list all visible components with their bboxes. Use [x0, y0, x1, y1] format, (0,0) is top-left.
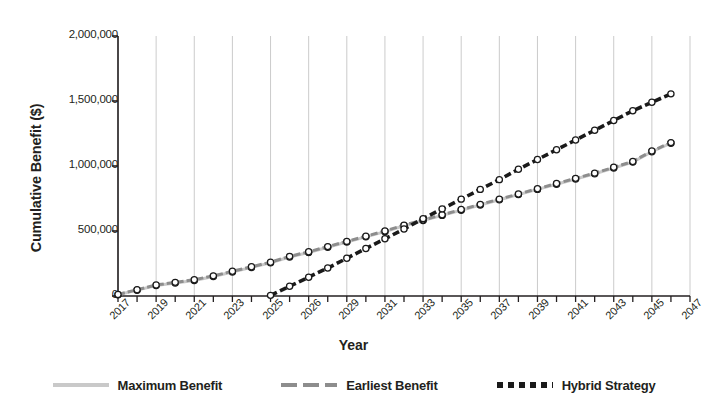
legend-label: Hybrid Strategy — [562, 378, 656, 393]
data-point-marker — [382, 236, 388, 242]
data-point-marker — [649, 99, 655, 105]
data-point-marker — [515, 191, 521, 197]
data-point-marker — [668, 140, 674, 146]
series-hybrid-strategy — [267, 91, 674, 299]
chart-legend: Maximum BenefitEarliest BenefitHybrid St… — [0, 372, 707, 398]
data-point-marker — [325, 265, 331, 271]
data-point-marker — [439, 206, 445, 212]
series-line — [118, 143, 671, 294]
data-point-marker — [172, 279, 178, 285]
legend-label: Maximum Benefit — [118, 378, 223, 393]
data-point-marker — [420, 216, 426, 222]
data-point-marker — [477, 201, 483, 207]
legend-item-hybrid-strategy[interactable]: Hybrid Strategy — [496, 378, 656, 393]
data-point-marker — [363, 233, 369, 239]
data-point-marker — [592, 127, 598, 133]
data-point-marker — [401, 226, 407, 232]
data-point-marker — [344, 238, 350, 244]
data-point-marker — [553, 147, 559, 153]
data-point-marker — [553, 180, 559, 186]
data-point-marker — [306, 249, 312, 255]
data-point-marker — [592, 170, 598, 176]
data-point-marker — [344, 255, 350, 261]
data-point-marker — [573, 175, 579, 181]
series-earliest-benefit — [115, 140, 674, 298]
data-point-marker — [287, 283, 293, 289]
data-point-marker — [534, 156, 540, 162]
data-point-marker — [515, 166, 521, 172]
legend-item-maximum-benefit[interactable]: Maximum Benefit — [52, 378, 223, 393]
series-maximum-benefit — [115, 140, 674, 298]
chart-figure: Cumulative Benefit ($) 0500,0001,000,000… — [0, 0, 707, 405]
data-point-marker — [458, 196, 464, 202]
data-point-marker — [534, 186, 540, 192]
data-point-marker — [649, 148, 655, 154]
data-point-marker — [325, 244, 331, 250]
data-point-marker — [611, 164, 617, 170]
data-point-marker — [668, 91, 674, 97]
data-point-marker — [248, 264, 254, 270]
series-line — [118, 143, 671, 295]
legend-swatch-icon — [52, 380, 110, 390]
data-point-marker — [115, 291, 121, 297]
legend-swatch-icon — [496, 380, 554, 390]
data-point-marker — [191, 277, 197, 283]
data-point-marker — [630, 158, 636, 164]
data-point-marker — [287, 253, 293, 259]
data-point-marker — [134, 287, 140, 293]
data-point-marker — [267, 259, 273, 265]
data-point-marker — [382, 228, 388, 234]
data-point-marker — [477, 186, 483, 192]
data-point-marker — [630, 108, 636, 114]
data-point-marker — [611, 117, 617, 123]
legend-label: Earliest Benefit — [346, 378, 437, 393]
data-point-marker — [210, 273, 216, 279]
data-point-marker — [496, 196, 502, 202]
data-point-marker — [573, 137, 579, 143]
data-point-marker — [363, 245, 369, 251]
data-point-marker — [496, 177, 502, 183]
legend-swatch-icon — [280, 380, 338, 390]
data-point-marker — [458, 206, 464, 212]
data-point-marker — [153, 282, 159, 288]
data-point-marker — [267, 292, 273, 298]
legend-item-earliest-benefit[interactable]: Earliest Benefit — [280, 378, 437, 393]
data-point-marker — [229, 268, 235, 274]
series-line — [271, 94, 671, 296]
x-axis-title: Year — [0, 337, 707, 353]
data-point-marker — [306, 274, 312, 280]
